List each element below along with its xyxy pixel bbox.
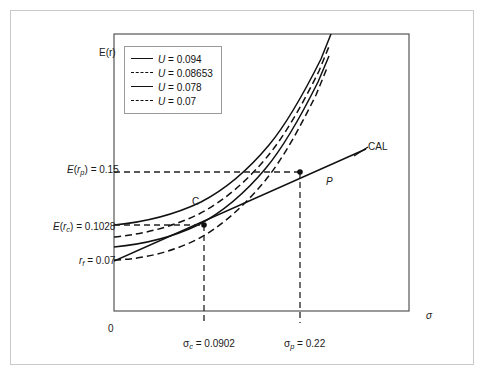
cal-label: CAL [368, 142, 387, 152]
legend-line-dashed-icon [131, 68, 153, 78]
y-tick-label-erp: E(rp) = 0.15 [67, 165, 119, 175]
legend-line-dashed-icon [131, 96, 153, 106]
legend-item: U = 0.07 [131, 94, 213, 108]
legend-line-solid-icon [131, 82, 153, 92]
y-axis-title: E(r) [99, 48, 116, 58]
legend-item: U = 0.08653 [131, 66, 213, 80]
legend-item-label: U = 0.07 [158, 96, 196, 107]
y-tick-label-erc: E(rc) = 0.1028 [53, 222, 115, 232]
chart-canvas [11, 11, 475, 366]
x-tick-label-sigmac: σc = 0.0902 [183, 339, 235, 349]
x-axis-title: σ [426, 311, 432, 321]
legend-item-label: U = 0.078 [158, 82, 202, 93]
point-label-c: C [192, 197, 199, 207]
point-label-p: P [326, 177, 333, 187]
data-point-c [201, 222, 207, 228]
x-tick-label-sigmap: σp = 0.22 [284, 339, 325, 349]
legend-item-label: U = 0.094 [158, 54, 202, 65]
legend-item: U = 0.078 [131, 80, 213, 94]
legend: U = 0.094 U = 0.08653 U = 0.078 U = 0.07 [124, 46, 222, 114]
origin-label: 0 [108, 324, 114, 334]
legend-line-solid-icon [131, 54, 153, 64]
legend-item-label: U = 0.08653 [158, 68, 213, 79]
y-tick-label-rf: rf = 0.07 [79, 256, 115, 266]
plot-stage: E(r) σ 0 E(rp) = 0.15 E(rc) = 0.1028 rf … [11, 11, 475, 366]
figure-outer-frame: E(r) σ 0 E(rp) = 0.15 E(rc) = 0.1028 rf … [10, 10, 474, 365]
data-point-p [297, 169, 303, 175]
legend-item: U = 0.094 [131, 52, 213, 66]
